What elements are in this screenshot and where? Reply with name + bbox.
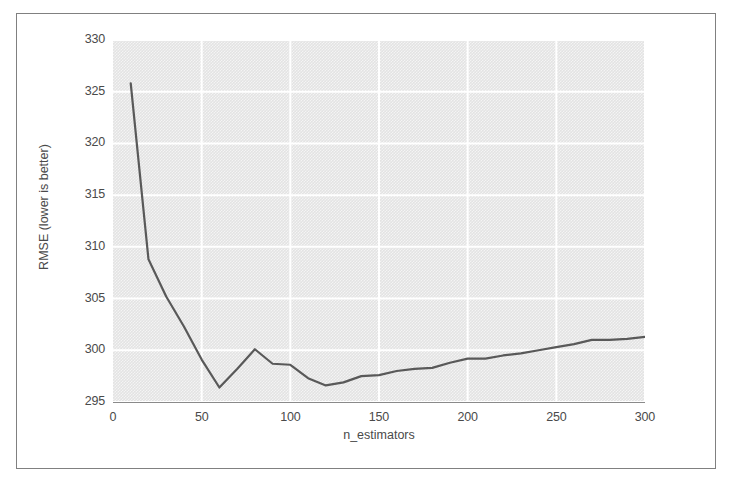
y-axis-title: RMSE (lower is better) — [37, 102, 51, 312]
y-tick-label: 300 — [59, 342, 105, 356]
y-tick-label: 295 — [59, 394, 105, 408]
y-tick-label: 310 — [59, 239, 105, 253]
y-tick-label: 305 — [59, 291, 105, 305]
plot-area — [113, 40, 645, 402]
x-tick-label: 50 — [179, 410, 225, 424]
x-tick-label: 200 — [445, 410, 491, 424]
x-tick-label: 0 — [90, 410, 136, 424]
y-tick-label: 320 — [59, 135, 105, 149]
data-series-line — [113, 40, 645, 402]
figure-frame: 295300305310315320325330 050100150200250… — [16, 13, 716, 469]
rmse-vs-n-estimators-chart: 295300305310315320325330 050100150200250… — [17, 14, 717, 470]
x-tick-label: 250 — [533, 410, 579, 424]
x-tick-label: 100 — [267, 410, 313, 424]
y-tick-label: 315 — [59, 187, 105, 201]
y-tick-label: 325 — [59, 84, 105, 98]
x-axis-spine — [113, 402, 645, 403]
x-tick-label: 150 — [356, 410, 402, 424]
x-tick-label: 300 — [622, 410, 668, 424]
y-tick-label: 330 — [59, 32, 105, 46]
x-axis-title: n_estimators — [113, 428, 645, 442]
